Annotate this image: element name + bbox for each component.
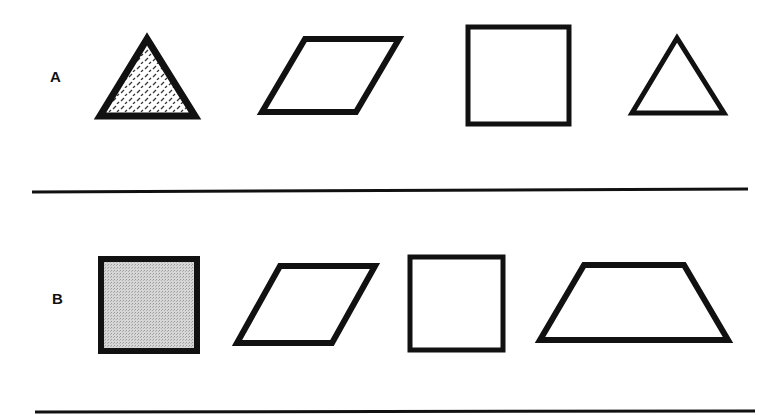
shapes-diagram <box>0 0 778 415</box>
row-b-shapes <box>101 257 728 351</box>
bottom-divider-line <box>35 411 755 412</box>
square-gray-filled-shape <box>101 259 197 351</box>
triangle-shape <box>632 38 724 113</box>
parallelogram-shape <box>237 266 375 343</box>
parallelogram-shape <box>262 39 399 112</box>
square-shape <box>410 257 503 350</box>
square-shape <box>468 27 569 124</box>
row-a-shapes <box>100 27 724 124</box>
triangle-patterned-shape <box>100 39 195 116</box>
trapezoid-shape <box>540 265 728 340</box>
divider-line <box>32 189 748 192</box>
